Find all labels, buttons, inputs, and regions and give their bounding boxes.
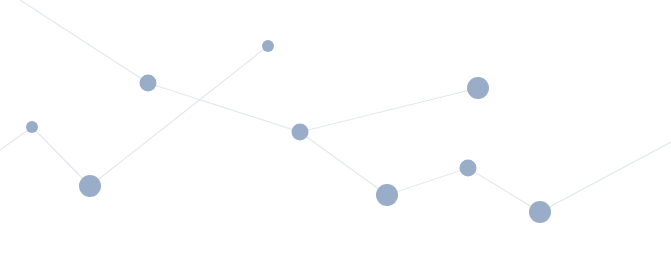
graph-edges bbox=[0, 0, 671, 212]
graph-node bbox=[376, 184, 398, 206]
graph-edge bbox=[32, 127, 90, 186]
graph-edge bbox=[540, 142, 671, 212]
graph-node bbox=[529, 201, 551, 223]
graph-edge bbox=[20, 0, 148, 83]
graph-node bbox=[26, 121, 38, 133]
graph-node bbox=[262, 40, 274, 52]
network-graph bbox=[0, 0, 671, 267]
graph-node bbox=[79, 175, 101, 197]
network-graph-canvas bbox=[0, 0, 671, 267]
graph-edge bbox=[300, 88, 478, 132]
graph-node bbox=[467, 77, 489, 99]
graph-nodes bbox=[26, 40, 551, 223]
graph-edge bbox=[90, 46, 268, 186]
graph-node bbox=[140, 75, 157, 92]
graph-edge bbox=[148, 83, 300, 132]
graph-edge bbox=[387, 168, 468, 195]
graph-edge bbox=[300, 132, 387, 195]
graph-node bbox=[292, 124, 309, 141]
graph-edge bbox=[468, 168, 540, 212]
graph-node bbox=[460, 160, 477, 177]
